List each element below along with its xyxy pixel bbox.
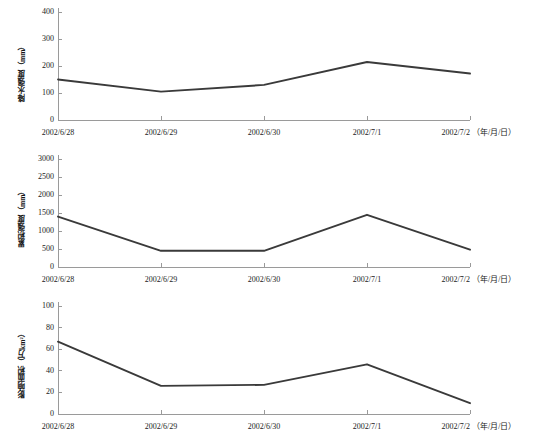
x-tick-label: 2002/6/30	[248, 128, 280, 137]
x-tick-label: 2002/6/30	[248, 422, 280, 431]
chart-panel-affected-area: 影响面积（万km²） 020406080100 2002/6/282002/6/…	[0, 294, 559, 441]
chart-svg	[0, 0, 559, 126]
x-tick-label: 2002/7/2 （年/月/日）	[442, 128, 517, 137]
x-tick-label: 2002/6/29	[145, 128, 177, 137]
x-tick-label: 2002/7/2 （年/月/日）	[442, 422, 517, 431]
data-series-line	[58, 215, 470, 251]
plot-area	[0, 147, 559, 273]
chart-panel-precipitation-intensity: 降水强度（mm） 0100200300400 2002/6/282002/6/2…	[0, 0, 559, 147]
x-tick-label: 2002/6/29	[145, 275, 177, 284]
x-tick-label: 2002/6/28	[42, 275, 74, 284]
x-tick-label: 2002/7/1	[353, 275, 381, 284]
x-tick-label: 2002/7/2 （年/月/日）	[442, 275, 517, 284]
chart-svg	[0, 147, 559, 273]
chart-panel-cumulative-intensity: 累积强度（mm） 050010001500200025003000 2002/6…	[0, 147, 559, 294]
x-tick-label: 2002/6/28	[42, 128, 74, 137]
x-tick-label: 2002/6/29	[145, 422, 177, 431]
figure-root: 降水强度（mm） 0100200300400 2002/6/282002/6/2…	[0, 0, 559, 441]
x-tick-label: 2002/6/30	[248, 275, 280, 284]
x-tick-label: 2002/7/1	[353, 128, 381, 137]
x-tick-label: 2002/7/1	[353, 422, 381, 431]
plot-area	[0, 0, 559, 126]
data-series-line	[58, 342, 470, 404]
x-tick-label: 2002/6/28	[42, 422, 74, 431]
plot-area	[0, 294, 559, 420]
data-series-line	[58, 62, 470, 92]
chart-svg	[0, 294, 559, 420]
